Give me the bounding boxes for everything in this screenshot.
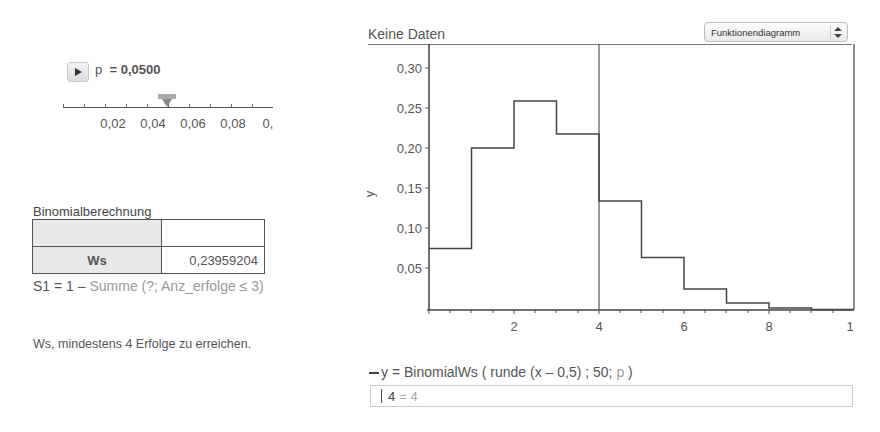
- slider-tick: [252, 104, 253, 108]
- input-lhs: 4: [388, 389, 395, 404]
- y-tick-label: 0,20: [397, 141, 422, 156]
- updown-arrows-icon: [830, 25, 845, 39]
- function-legend[interactable]: y = BinomialWs ( runde (x – 0,5) ; 50; p…: [369, 364, 633, 380]
- legend-suffix: ): [628, 364, 633, 380]
- formula-body: Summe (?; Anz_erfolge ≤ 3): [89, 278, 263, 294]
- attribute-name-cell[interactable]: Ws: [33, 247, 162, 274]
- calculation-table: Ws 0,23959204: [32, 219, 265, 274]
- y-tick-label: 0,15: [397, 181, 422, 196]
- legend-parameter: p: [616, 364, 624, 380]
- plot-type-select[interactable]: Funktionendiagramm: [704, 22, 848, 42]
- x-tick-label: 6: [680, 319, 687, 334]
- slider-tick-label: 0,06: [180, 116, 205, 131]
- y-tick-label: 0,30: [397, 61, 422, 76]
- input-rhs: = 4: [399, 389, 417, 404]
- slider-label: p = 0,0500: [95, 62, 160, 77]
- text-cursor: [381, 389, 382, 403]
- table-row: Ws 0,23959204: [33, 247, 265, 274]
- slider-tick-label: 0,: [263, 116, 274, 131]
- slider-variable: p: [95, 62, 102, 77]
- legend-expression: y = BinomialWs ( runde (x – 0,5) ; 50;: [381, 364, 612, 380]
- attribute-value-cell[interactable]: 0,23959204: [162, 247, 265, 274]
- formula-prefix: S1 = 1 –: [33, 278, 86, 294]
- x-tick-label: 1: [846, 319, 853, 334]
- table-header-cell[interactable]: [162, 220, 265, 247]
- slider-thumb[interactable]: [157, 94, 177, 108]
- description-text: Ws, mindestens 4 Erfolge zu erreichen.: [33, 336, 283, 352]
- table-header-row: [33, 220, 265, 247]
- legend-line-icon: [369, 372, 379, 374]
- slider-tick: [63, 104, 64, 108]
- slider-value: = 0,0500: [109, 62, 160, 77]
- slider-tick-label: 0,02: [100, 116, 125, 131]
- attribute-formula[interactable]: S1 = 1 – Summe (?; Anz_erfolge ≤ 3): [33, 278, 264, 294]
- slider-tick-label: 0,04: [140, 116, 165, 131]
- y-tick-label: 0,05: [397, 261, 422, 276]
- play-button[interactable]: [67, 62, 89, 82]
- slider-tick: [189, 104, 190, 108]
- binomial-step-series: [429, 101, 854, 310]
- plot-type-value: Funktionendiagramm: [705, 27, 830, 38]
- x-tick-label: 4: [595, 319, 602, 334]
- x-tick-label: 8: [765, 319, 772, 334]
- y-axis-label: y: [362, 190, 377, 197]
- x-tick-label: 2: [510, 319, 517, 334]
- slider-tick: [126, 104, 127, 108]
- slider-tick: [210, 104, 211, 108]
- slider-tick-label: 0,08: [220, 116, 245, 131]
- slider-tick: [147, 104, 148, 108]
- plot-value-input[interactable]: 4 = 4: [370, 385, 853, 407]
- slider-tick: [231, 104, 232, 108]
- x-axis-label: x: [639, 339, 646, 344]
- y-tick-label: 0,10: [397, 221, 422, 236]
- function-plot[interactable]: 0,30 0,25 0,20 0,15 0,10 0,05 y 2 4 6 8 …: [360, 44, 860, 344]
- play-icon: [73, 67, 83, 77]
- slider-tick: [84, 104, 85, 108]
- slider-tick: [105, 104, 106, 108]
- table-header-cell[interactable]: [33, 220, 162, 247]
- graph-title: Keine Daten: [368, 26, 445, 42]
- y-tick-label: 0,25: [397, 101, 422, 116]
- table-title: Binomialberechnung: [33, 204, 154, 220]
